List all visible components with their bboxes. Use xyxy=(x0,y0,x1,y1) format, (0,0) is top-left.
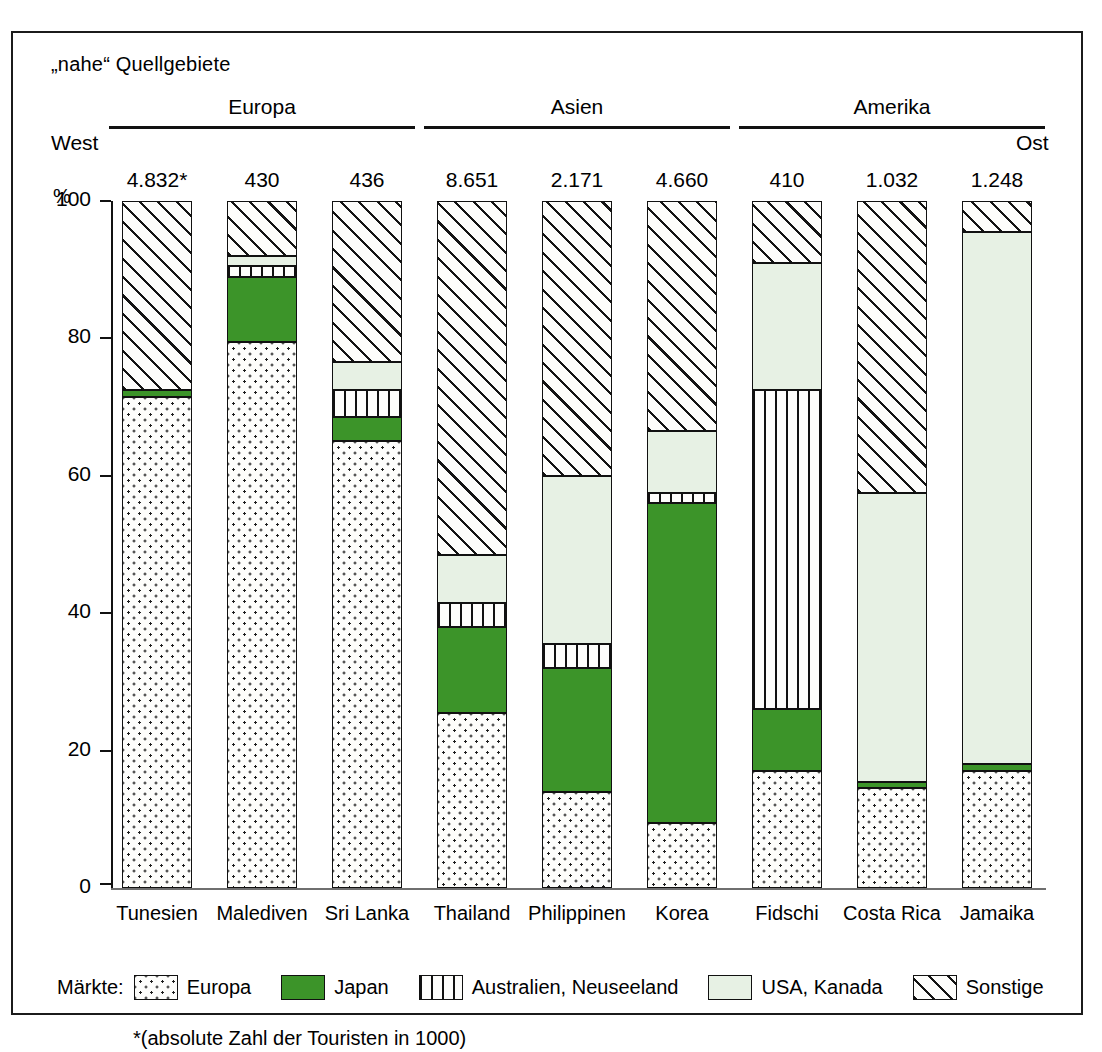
legend-item-japan[interactable]: Japan xyxy=(281,975,419,1000)
bar-total-label: 410 xyxy=(727,168,847,192)
bar-segment-japan[interactable] xyxy=(332,417,402,441)
bar-segment-usa[interactable] xyxy=(227,256,297,266)
legend-label-sonstige: Sonstige xyxy=(966,976,1044,999)
y-axis-tick-label: 100 xyxy=(33,187,91,211)
legend-swatch-austral xyxy=(419,975,463,1000)
bar-segment-europa[interactable] xyxy=(542,792,612,888)
chart-frame: „nahe“ Quellgebiete West Ost % EuropaAsi… xyxy=(11,31,1083,1015)
legend-item-europa[interactable]: Europa xyxy=(134,975,282,1000)
y-axis-tick-mark xyxy=(100,337,111,339)
bar-segment-sonstige[interactable] xyxy=(332,201,402,362)
bar-segment-sonstige[interactable] xyxy=(962,201,1032,232)
bar-segment-usa[interactable] xyxy=(857,493,927,782)
region-label-amerika: Amerika xyxy=(802,95,982,119)
bar-segment-europa[interactable] xyxy=(122,397,192,888)
x-axis-line xyxy=(111,888,1046,890)
y-axis-tick-label: 40 xyxy=(33,599,91,623)
stacked-bar[interactable] xyxy=(542,201,612,888)
bar-segment-europa[interactable] xyxy=(437,713,507,888)
category-label: Korea xyxy=(622,902,742,925)
bar-total-label: 2.171 xyxy=(517,168,637,192)
y-axis-tick-mark xyxy=(100,200,111,202)
y-axis-tick-label: 80 xyxy=(33,324,91,348)
category-label: Sri Lanka xyxy=(307,902,427,925)
bar-segment-sonstige[interactable] xyxy=(752,201,822,263)
bar-segment-japan[interactable] xyxy=(962,764,1032,771)
x-axis-zero-tick xyxy=(100,883,113,885)
bar-segment-austral[interactable] xyxy=(332,390,402,417)
region-rule xyxy=(424,126,730,129)
legend-label-europa: Europa xyxy=(187,976,252,999)
bar-segment-austral[interactable] xyxy=(437,603,507,627)
bar-total-label: 8.651 xyxy=(412,168,532,192)
category-label: Philippinen xyxy=(517,902,637,925)
bar-segment-usa[interactable] xyxy=(332,362,402,389)
bar-segment-europa[interactable] xyxy=(332,441,402,888)
bar-segment-japan[interactable] xyxy=(752,709,822,771)
bar-segment-usa[interactable] xyxy=(437,555,507,603)
bar-segment-austral[interactable] xyxy=(542,644,612,668)
bar-segment-europa[interactable] xyxy=(647,823,717,888)
bar-segment-europa[interactable] xyxy=(227,342,297,888)
y-axis-tick-mark xyxy=(100,612,111,614)
bar-segment-austral[interactable] xyxy=(752,390,822,709)
stacked-bar[interactable] xyxy=(962,201,1032,888)
y-axis-tick-label: 0 xyxy=(33,874,91,898)
bar-total-label: 1.248 xyxy=(937,168,1057,192)
bar-segment-usa[interactable] xyxy=(962,232,1032,764)
stacked-bar[interactable] xyxy=(122,201,192,888)
bar-segment-europa[interactable] xyxy=(962,771,1032,888)
y-axis-tick-label: 60 xyxy=(33,462,91,486)
bar-segment-usa[interactable] xyxy=(752,263,822,390)
legend-swatch-usa xyxy=(708,975,752,1000)
bar-segment-sonstige[interactable] xyxy=(122,201,192,390)
bar-total-label: 4.660 xyxy=(622,168,742,192)
axis-label-west: West xyxy=(51,131,98,155)
bar-segment-austral[interactable] xyxy=(227,266,297,276)
bar-total-label: 430 xyxy=(202,168,322,192)
bar-total-label: 4.832* xyxy=(97,168,217,192)
bar-segment-japan[interactable] xyxy=(857,782,927,789)
legend-swatch-europa xyxy=(134,975,178,1000)
y-axis-line xyxy=(111,201,113,889)
bar-segment-usa[interactable] xyxy=(647,431,717,493)
stacked-bar[interactable] xyxy=(437,201,507,888)
stacked-bar[interactable] xyxy=(752,201,822,888)
bar-segment-japan[interactable] xyxy=(122,390,192,397)
stacked-bar[interactable] xyxy=(647,201,717,888)
stacked-bar[interactable] xyxy=(857,201,927,888)
category-label: Malediven xyxy=(202,902,322,925)
legend-label-japan: Japan xyxy=(334,976,389,999)
axis-label-ost: Ost xyxy=(1016,131,1049,155)
bar-segment-sonstige[interactable] xyxy=(857,201,927,493)
legend-title: Märkte: xyxy=(57,976,124,999)
bar-segment-austral[interactable] xyxy=(647,493,717,503)
bar-segment-japan[interactable] xyxy=(647,503,717,822)
bar-segment-sonstige[interactable] xyxy=(227,201,297,256)
category-label: Thailand xyxy=(412,902,532,925)
legend-item-austral[interactable]: Australien, Neuseeland xyxy=(419,975,709,1000)
bar-segment-sonstige[interactable] xyxy=(437,201,507,555)
bar-total-label: 436 xyxy=(307,168,427,192)
legend: Märkte: EuropaJapanAustralien, Neuseelan… xyxy=(57,975,1074,1000)
stacked-bar[interactable] xyxy=(227,201,297,888)
bar-segment-europa[interactable] xyxy=(752,771,822,888)
bar-segment-japan[interactable] xyxy=(227,277,297,342)
legend-label-austral: Australien, Neuseeland xyxy=(472,976,679,999)
bar-segment-japan[interactable] xyxy=(437,627,507,713)
category-label: Fidschi xyxy=(727,902,847,925)
bar-segment-europa[interactable] xyxy=(857,788,927,888)
stacked-bar[interactable] xyxy=(332,201,402,888)
page-title: „nahe“ Quellgebiete xyxy=(51,53,230,76)
region-rule xyxy=(109,126,415,129)
bar-segment-japan[interactable] xyxy=(542,668,612,792)
legend-item-usa[interactable]: USA, Kanada xyxy=(708,975,912,1000)
legend-swatch-sonstige xyxy=(913,975,957,1000)
bar-segment-usa[interactable] xyxy=(542,476,612,644)
bar-segment-sonstige[interactable] xyxy=(542,201,612,476)
region-rule xyxy=(739,126,1045,129)
legend-label-usa: USA, Kanada xyxy=(761,976,882,999)
bar-segment-sonstige[interactable] xyxy=(647,201,717,431)
legend-item-sonstige[interactable]: Sonstige xyxy=(913,975,1074,1000)
category-label: Costa Rica xyxy=(832,902,952,925)
